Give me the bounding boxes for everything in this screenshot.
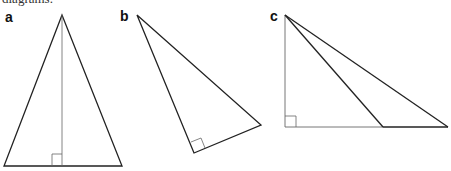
right-angle-marker-c [285, 116, 296, 127]
triangle-a-outline [4, 15, 122, 166]
triangle-a [4, 15, 122, 166]
triangles-diagram [0, 0, 451, 171]
triangle-c-hypotenuse [285, 15, 448, 127]
triangle-c [285, 15, 448, 127]
right-angle-marker-b [191, 138, 205, 148]
triangle-b [137, 15, 261, 153]
triangle-b-outline [137, 15, 261, 153]
triangle-c-cevian [285, 15, 383, 127]
right-angle-marker-a [52, 154, 62, 166]
